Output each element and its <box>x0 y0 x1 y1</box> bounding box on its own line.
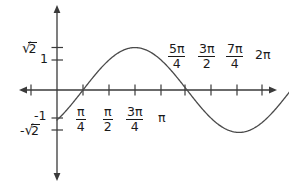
x-label-pi: π <box>158 112 166 125</box>
y-label-negative-one: -1 <box>34 110 46 123</box>
y-axis-bottom-arrowhead <box>54 173 61 181</box>
y-label-negative-sqrt-two: -√2 <box>20 122 40 138</box>
x-label-pi-over-2: π2 <box>103 105 113 134</box>
y-label-one: 1 <box>40 53 48 66</box>
sine-curve-figure: √2 1 -1 -√2 π4 π2 3π4 π 5π4 3π2 7π4 2π <box>0 0 289 185</box>
x-label-two-pi: 2π <box>255 49 270 62</box>
x-axis-left-arrowhead <box>19 87 27 94</box>
x-axis-right-arrowhead <box>269 87 277 94</box>
y-axis-top-arrowhead <box>54 5 61 13</box>
x-axis <box>19 87 277 94</box>
y-label-sqrt-two: √2 <box>22 40 37 56</box>
coordinate-plane-svg <box>0 0 289 185</box>
x-label-five-pi-over-4: 5π4 <box>168 42 185 71</box>
x-label-three-pi-over-2: 3π2 <box>198 42 215 71</box>
x-label-three-pi-over-4: 3π4 <box>126 105 143 134</box>
x-label-seven-pi-over-4: 7π4 <box>226 42 243 71</box>
y-axis <box>54 5 61 181</box>
x-label-pi-over-4: π4 <box>76 105 86 134</box>
